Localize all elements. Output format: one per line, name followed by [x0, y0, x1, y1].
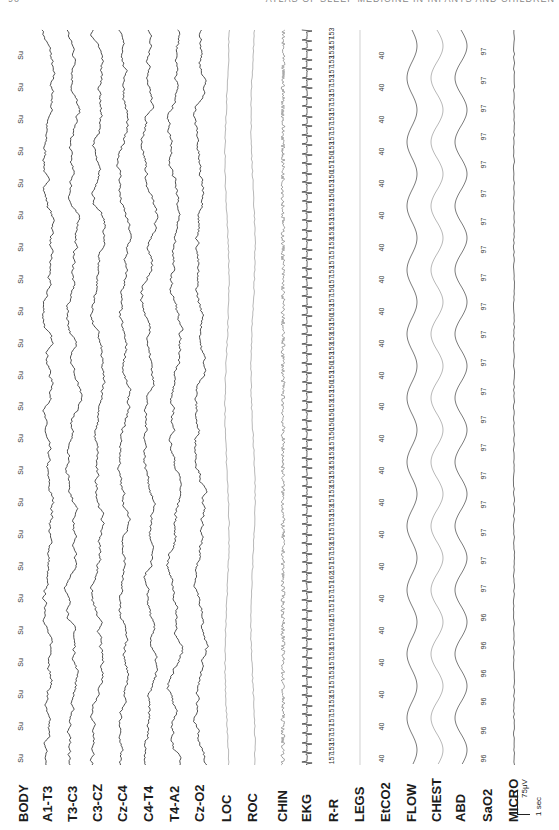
body-position-value: Su: [17, 211, 24, 220]
channel-label-legs: LEGS: [352, 787, 367, 822]
channel-label-t3-c3: T3-C3: [65, 786, 80, 822]
etco2-value: 40: [378, 691, 385, 699]
channel-label-a1-t3: A1-T3: [40, 786, 55, 822]
trace-loc: [225, 30, 230, 765]
channel-label-c4-t4: C4-T4: [141, 786, 156, 822]
body-position-value: Su: [17, 275, 24, 284]
scale-bar: 75μV 1 sec: [517, 790, 530, 815]
body-position-value: Su: [17, 307, 24, 316]
etco2-value: 40: [378, 531, 385, 539]
channel-label-cz-o2: Cz-O2: [192, 784, 207, 822]
sao2-value: 97: [480, 48, 487, 56]
sao2-value: 97: [480, 585, 487, 593]
sao2-value: 97: [480, 302, 487, 310]
trace-chin: [281, 30, 285, 765]
etco2-value: 40: [378, 499, 385, 507]
rr-interval-value: 153: [328, 27, 335, 39]
etco2-value: 40: [378, 563, 385, 571]
sao2-value: 97: [480, 104, 487, 112]
body-position-value: Su: [17, 594, 24, 603]
sao2-value: 97: [480, 359, 487, 367]
body-position-value: Su: [17, 435, 24, 444]
etco2-value: 40: [378, 595, 385, 603]
etco2-value: 40: [378, 403, 385, 411]
channel-label-chest: CHEST: [429, 778, 444, 822]
etco2-value: 40: [378, 52, 385, 60]
sao2-value: 96: [480, 613, 487, 621]
channel-label-etco2: EtCO2: [378, 782, 393, 822]
rr-interval-value: 153: [328, 333, 335, 345]
sao2-value: 97: [480, 415, 487, 423]
etco2-value: 40: [378, 243, 385, 251]
body-position-value: Su: [17, 690, 24, 699]
sao2-value: 97: [480, 557, 487, 565]
channel-label-chin: CHIN: [275, 790, 290, 822]
trace-a1-t3: [42, 30, 55, 765]
body-position-value: Su: [17, 243, 24, 252]
sao2-value: 97: [480, 528, 487, 536]
etco2-value: 40: [378, 659, 385, 667]
sao2-value: 96: [480, 726, 487, 734]
rr-interval-value: 153: [328, 228, 335, 240]
trace-chest: [431, 30, 443, 764]
sao2-value: 97: [480, 472, 487, 480]
etco2-value: 40: [378, 179, 385, 187]
body-position-value: Su: [17, 531, 24, 540]
trace-flow: [407, 30, 417, 764]
channel-label-r-r: R-R: [326, 799, 341, 822]
trace-c4-t4: [140, 30, 158, 765]
body-position-value: Su: [17, 179, 24, 188]
trace-roc: [251, 30, 256, 765]
etco2-value: 40: [378, 627, 385, 635]
channel-label-body: BODY: [16, 784, 31, 822]
trace-cz-o2: [194, 30, 209, 765]
sao2-value: 97: [480, 133, 487, 141]
body-position-value: Su: [17, 658, 24, 667]
sao2-value: 97: [480, 274, 487, 282]
channel-label-ekg: EKG: [299, 794, 314, 822]
body-position-value: Su: [17, 147, 24, 156]
trace-t3-c3: [64, 30, 82, 765]
sao2-value: 97: [480, 246, 487, 254]
sao2-value: 96: [480, 755, 487, 763]
channel-label-sao2: SaO2: [480, 789, 495, 822]
etco2-value: 40: [378, 467, 385, 475]
body-position-value: Su: [17, 467, 24, 476]
rr-interval-value: 157: [328, 438, 335, 450]
sao2-value: 97: [480, 387, 487, 395]
sao2-value: 96: [480, 642, 487, 650]
channel-label-flow: FLOW: [404, 784, 419, 822]
scale-time: 1 sec: [534, 797, 543, 816]
sao2-value: 97: [480, 189, 487, 197]
body-position-value: Su: [17, 499, 24, 508]
trace-c3-cz: [90, 30, 105, 765]
body-position-value: Su: [17, 51, 24, 60]
sao2-value: 97: [480, 76, 487, 84]
channel-label-c3-cz: C3-CZ: [90, 784, 105, 822]
channel-label-loc: LOC: [219, 795, 234, 822]
body-position-value: Su: [17, 403, 24, 412]
rr-interval-value: 153: [328, 648, 335, 660]
etco2-value: 40: [378, 435, 385, 443]
body-position-value: Su: [17, 83, 24, 92]
etco2-value: 40: [378, 275, 385, 283]
etco2-value: 40: [378, 307, 385, 315]
etco2-value: 40: [378, 147, 385, 155]
sao2-value: 96: [480, 698, 487, 706]
trace-cz-c4: [117, 30, 131, 765]
etco2-value: 40: [378, 115, 385, 123]
sao2-value: 97: [480, 217, 487, 225]
body-position-value: Su: [17, 339, 24, 348]
rr-interval-value: 153: [328, 543, 335, 555]
body-position-value: Su: [17, 371, 24, 380]
trace-ekg: [302, 30, 313, 765]
channel-label-roc: ROC: [245, 793, 260, 822]
etco2-value: 40: [378, 211, 385, 219]
channel-label-cz-c4: Cz-C4: [115, 785, 130, 822]
body-position-value: Su: [17, 626, 24, 635]
polysomnogram-figure: [0, 0, 559, 830]
rr-interval-value: 157: [328, 753, 335, 765]
sao2-value: 97: [480, 331, 487, 339]
trace-t4-a2: [167, 30, 184, 765]
body-position-value: Su: [17, 722, 24, 731]
